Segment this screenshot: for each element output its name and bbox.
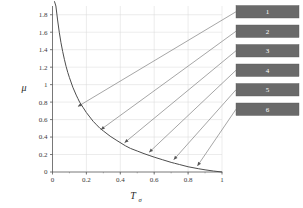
y-tick-label: 0 <box>44 168 48 176</box>
y-tick-label: 1.8 <box>39 11 48 19</box>
legend-item-label: 3 <box>266 47 270 55</box>
y-axis-title: μ <box>20 82 26 93</box>
x-tick-label: 0 <box>51 176 55 184</box>
legend-item-3[interactable]: 3 <box>236 45 299 58</box>
chart-figure: 00.20.40.60.81 00.20.40.60.811.21.41.61.… <box>0 0 303 208</box>
x-tick-label: 0.6 <box>150 176 159 184</box>
y-tick-label: 0.8 <box>39 99 48 107</box>
y-tick-label: 0.2 <box>39 151 48 159</box>
legend-item-label: 5 <box>266 86 270 94</box>
legend-item-label: 4 <box>266 67 270 75</box>
y-tick-label: 1.2 <box>39 64 48 72</box>
y-tick-label: 0.4 <box>39 133 48 141</box>
legend-item-label: 6 <box>266 106 270 114</box>
plot-canvas: 00.20.40.60.81 00.20.40.60.811.21.41.61.… <box>0 0 303 208</box>
legend-item-5[interactable]: 5 <box>236 84 299 97</box>
y-tick-label: 0.6 <box>39 116 48 124</box>
legend-item-2[interactable]: 2 <box>236 25 299 38</box>
legend-item-label: 1 <box>266 8 270 16</box>
legend-item-4[interactable]: 4 <box>236 64 299 77</box>
x-tick-label: 0.2 <box>82 176 91 184</box>
legend-item-6[interactable]: 6 <box>236 103 299 116</box>
legend-item-1[interactable]: 1 <box>236 6 299 19</box>
x-tick-label: 1 <box>220 176 224 184</box>
x-tick-label: 0.4 <box>116 176 125 184</box>
y-tick-label: 1.4 <box>39 46 48 54</box>
legend-item-label: 2 <box>266 28 270 36</box>
x-tick-label: 0.8 <box>184 176 193 184</box>
y-tick-label: 1.6 <box>39 29 48 37</box>
y-tick-label: 1 <box>44 81 48 89</box>
